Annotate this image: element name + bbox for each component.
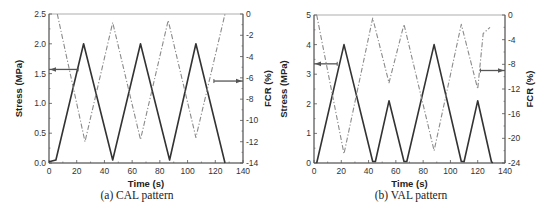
val-pattern-chart: 0204060801001201400123450-4-8-12-16-20-2…: [274, 0, 548, 216]
y-axis-label: Stress (MPa): [13, 60, 24, 118]
y2-tick-label: -8: [508, 59, 516, 69]
x-tick-label: 60: [127, 166, 137, 176]
x-tick-label: 100: [443, 166, 457, 176]
y-tick-label: 2.5: [34, 9, 46, 19]
y2-axis-label: FCR (%): [262, 70, 273, 107]
y-tick-label: 1: [306, 128, 311, 138]
x-tick-label: 100: [180, 166, 194, 176]
y2-tick-label: -14: [246, 158, 259, 168]
stress-line: [317, 45, 493, 163]
y2-tick-label: -12: [508, 84, 521, 94]
y-tick-label: 5: [306, 10, 311, 20]
x-tick-label: 120: [208, 166, 222, 176]
plot-frame: [314, 15, 505, 163]
x-axis-label: Time (s): [391, 178, 427, 189]
plot-frame: [49, 14, 243, 163]
y-tick-label: 3: [306, 69, 311, 79]
x-tick-label: 80: [155, 166, 165, 176]
y-tick-label: 0.0: [34, 158, 46, 168]
x-tick-label: 60: [391, 166, 401, 176]
y2-tick-label: -4: [246, 52, 254, 62]
y2-tick-label: -8: [246, 94, 254, 104]
arrow-to-fcr-axis-icon: [214, 79, 243, 84]
arrow-to-stress-axis-icon: [49, 67, 78, 72]
y-axis-label: Stress (MPa): [278, 60, 289, 118]
y2-tick-label: -4: [508, 35, 516, 45]
stress-line: [49, 44, 225, 163]
y-tick-label: 0.5: [34, 128, 46, 138]
x-tick-label: 0: [47, 166, 52, 176]
chart-panel-cal: 0204060801001201400.00.51.01.52.02.50-2-…: [0, 0, 274, 216]
chart-panel-val: 0204060801001201400123450-4-8-12-16-20-2…: [274, 0, 548, 216]
y2-tick-label: -12: [246, 137, 259, 147]
y-tick-label: 4: [306, 40, 311, 50]
y2-tick-label: -16: [508, 109, 521, 119]
y2-axis-label: FCR (%): [524, 71, 535, 108]
caption-val: (b) VAL pattern: [274, 189, 548, 201]
y2-tick-label: 0: [246, 9, 251, 19]
x-axis-label: Time (s): [128, 178, 164, 189]
caption-cal: (a) CAL pattern: [0, 189, 274, 201]
y2-tick-label: -24: [508, 158, 521, 168]
y-tick-label: 2: [306, 99, 311, 109]
y-tick-label: 1.5: [34, 69, 46, 79]
y2-tick-label: -20: [508, 133, 521, 143]
y-tick-label: 0: [306, 158, 311, 168]
x-tick-label: 20: [72, 166, 82, 176]
x-tick-label: 120: [471, 166, 485, 176]
y2-tick-label: -10: [246, 115, 259, 125]
x-tick-label: 40: [364, 166, 374, 176]
x-tick-label: 20: [337, 166, 347, 176]
arrow-to-fcr-axis-icon: [480, 68, 505, 73]
x-tick-label: 0: [312, 166, 317, 176]
y2-tick-label: -6: [246, 73, 254, 83]
fcr-line: [57, 14, 225, 142]
y2-tick-label: 0: [508, 10, 513, 20]
fcr-line: [317, 15, 490, 154]
cal-pattern-chart: 0204060801001201400.00.51.01.52.02.50-2-…: [0, 0, 274, 216]
x-tick-label: 80: [418, 166, 428, 176]
y2-tick-label: -2: [246, 30, 254, 40]
x-tick-label: 40: [100, 166, 110, 176]
y-tick-label: 1.0: [34, 98, 46, 108]
y-tick-label: 2.0: [34, 39, 46, 49]
